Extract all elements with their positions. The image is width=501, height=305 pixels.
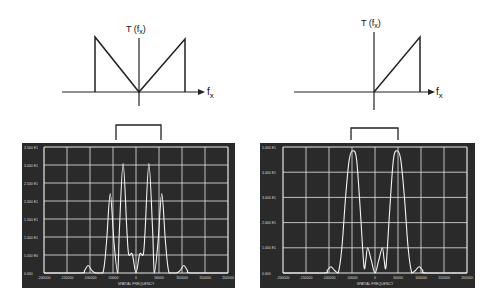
x-tick-label: -100000 — [323, 276, 336, 280]
plot-grid — [44, 147, 228, 273]
transfer-curve — [374, 37, 420, 92]
aperture-symbol — [116, 125, 161, 140]
x-tick-label: 0 — [374, 276, 376, 280]
x-axis-label: SPATIAL FREQUENCY — [357, 282, 394, 286]
x-axis-label: SPATIAL FREQUENCY — [118, 282, 155, 286]
t-label: T (f — [361, 18, 375, 28]
x-tick-label: 100000 — [176, 276, 188, 280]
y-tick-label: 1.500 E1 — [24, 218, 38, 222]
spectrum-plot-left: 0.0005.000 E01.000 E11.500 E12.000 E12.5… — [22, 143, 235, 288]
y-tick-label: 3.000 E1 — [24, 164, 38, 168]
svg-text:fx: fx — [436, 86, 443, 100]
y-tick-label: 0.000 — [262, 272, 271, 276]
y-tick-label: 3.000 E1 — [262, 196, 276, 200]
transfer-curve — [95, 37, 185, 92]
x-tick-label: 50000 — [393, 276, 403, 280]
x-tick-label: 50000 — [154, 276, 164, 280]
y-tick-label: 3.500 E1 — [24, 146, 38, 150]
y-tick-label: 5.000 E1 — [262, 146, 276, 150]
y-tick-label: 2.500 E1 — [24, 182, 38, 186]
x-tick-label: 150000 — [199, 276, 211, 280]
fx-label-sub: x — [210, 91, 214, 100]
x-tick-label: -200000 — [38, 276, 51, 280]
x-tick-label: -150000 — [61, 276, 74, 280]
y-tick-label: 4.000 E1 — [262, 171, 276, 175]
transfer-function-diagram-right: T (fx) fx — [250, 0, 501, 140]
t-label-close: ) — [378, 18, 381, 28]
x-tick-label: -50000 — [108, 276, 119, 280]
plot-grid — [283, 147, 467, 273]
fx-label-sub: x — [439, 91, 443, 100]
arrow-head-icon — [198, 89, 205, 95]
x-tick-label: 200000 — [461, 276, 473, 280]
aperture-symbol — [351, 128, 398, 140]
svg-text:fx: fx — [207, 86, 214, 100]
y-tick-label: 1.000 E1 — [262, 246, 276, 250]
x-tick-label: -50000 — [347, 276, 358, 280]
x-tick-label: 100000 — [415, 276, 427, 280]
y-tick-label: 0.000 — [24, 272, 33, 276]
svg-text:T (fx): T (fx) — [126, 24, 146, 35]
x-tick-label: -100000 — [84, 276, 97, 280]
spectrum-plot-right: 0.0001.000 E12.000 E13.000 E14.000 E15.0… — [260, 143, 475, 288]
svg-text:T (fx): T (fx) — [361, 18, 381, 29]
x-tick-label: 0 — [135, 276, 137, 280]
transfer-function-diagram-left: T (fx) fx — [0, 0, 250, 140]
x-tick-label: -200000 — [277, 276, 290, 280]
y-tick-label: 2.000 E1 — [24, 200, 38, 204]
x-tick-label: 150000 — [438, 276, 450, 280]
y-tick-label: 5.000 E0 — [24, 254, 38, 258]
y-tick-label: 2.000 E1 — [262, 221, 276, 225]
arrow-head-icon — [428, 89, 435, 95]
y-tick-label: 1.000 E1 — [24, 236, 38, 240]
x-tick-label: -150000 — [300, 276, 313, 280]
x-tick-label: 200000 — [222, 276, 234, 280]
t-label: T (f — [126, 24, 140, 34]
t-label-close: ) — [143, 24, 146, 34]
